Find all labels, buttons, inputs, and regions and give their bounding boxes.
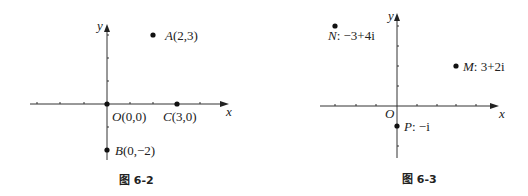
point-b-label: B(0,−2) (115, 143, 155, 158)
y-axis-arrow-icon (104, 24, 110, 32)
figure-6-2: y x A(2,3) O(0,0) C(3,0) B(0,−2) 图 6-2 (30, 18, 232, 187)
point-a-label: A(2,3) (164, 28, 198, 43)
y-axis-label: y (95, 18, 103, 33)
point-a (150, 32, 155, 37)
point-b (104, 147, 109, 152)
y-axis-label: y (386, 8, 394, 23)
point-c (174, 101, 179, 106)
point-p-label: P: −i (403, 119, 430, 134)
figure-6-3: y x O N: −3+4i M: 3+2i P: −i 图 6-3 (320, 8, 505, 186)
figures-canvas: y x A(2,3) O(0,0) C(3,0) B(0,−2) 图 6-2 (0, 0, 528, 196)
point-c-label: C(3,0) (163, 109, 197, 124)
point-n-label: N: −3+4i (327, 28, 375, 43)
point-o-label: O(0,0) (112, 109, 146, 124)
figure-caption: 图 6-2 (119, 174, 154, 187)
figure-caption: 图 6-3 (402, 173, 437, 186)
point-p (394, 123, 399, 128)
point-m-label: M: 3+2i (462, 59, 505, 74)
x-axis-label: x (225, 104, 232, 119)
origin-label: O (385, 106, 395, 121)
x-axis-arrow-icon (490, 103, 499, 109)
point-m (453, 63, 458, 68)
point-o (104, 101, 109, 106)
x-axis-label: x (498, 106, 505, 121)
y-axis-arrow-icon (394, 13, 400, 21)
